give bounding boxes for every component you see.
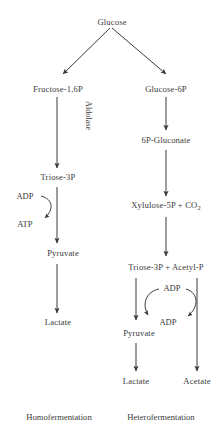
node-glucose: Glucose <box>97 18 126 27</box>
node-fructose-1-6p: Fructose-1,6P <box>33 85 83 94</box>
node-pyruvate-left: Pyruvate <box>47 249 79 258</box>
curved-arrow-adp-to-atp <box>41 196 51 218</box>
node-pyruvate-right: Pyruvate <box>123 329 155 338</box>
curved-arrow-adp-loop-right <box>186 289 196 316</box>
cofactor-adp-left: ADP <box>16 192 33 201</box>
node-triose-3p-acetyl-p: Triose-3P + Acetyl-P <box>128 263 204 272</box>
fermentation-pathway-diagram: Glucose Fructose-1,6P Glucose-6P Aldolas… <box>0 0 224 430</box>
subscript-2: 2 <box>197 204 200 211</box>
node-acetate-right: Acetate <box>183 377 210 386</box>
cofactor-adp-right-bottom: ADP <box>159 318 176 327</box>
node-glucose-6p: Glucose-6P <box>145 85 187 94</box>
enzyme-label-aldolase: Aldolase <box>84 101 92 130</box>
arrow-glucose-to-glucose6p <box>112 28 166 74</box>
arrow-glucose-to-fructose16p <box>63 28 110 74</box>
node-triose-3p-left: Triose-3P <box>41 173 76 182</box>
node-lactate-right: Lactate <box>123 377 149 386</box>
cofactor-atp-left: ATP <box>17 220 32 229</box>
footer-homofermentation: Homofermentation <box>26 413 91 422</box>
node-xylulose-5p-co2: Xylulose-5P + CO2 <box>131 201 201 211</box>
cofactor-adp-right-top: ADP <box>163 284 180 293</box>
curved-arrow-adp-loop-left <box>145 289 159 315</box>
node-6p-gluconate: 6P-Gluconate <box>141 136 190 145</box>
node-xylulose-5p-co2-text: Xylulose-5P + CO <box>131 200 197 210</box>
footer-heterofermentation: Heterofermentation <box>127 413 194 422</box>
pathway-arrows-layer <box>0 0 224 430</box>
node-lactate-left: Lactate <box>45 318 71 327</box>
